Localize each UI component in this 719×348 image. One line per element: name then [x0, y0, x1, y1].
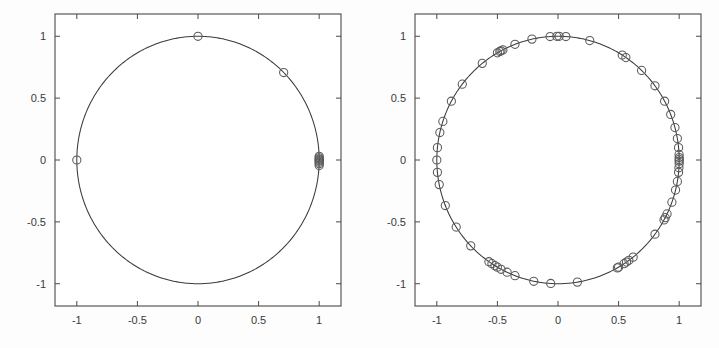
y-tick-label-4: 1: [40, 30, 46, 42]
axes-box: [415, 14, 701, 306]
axes-box: [55, 14, 341, 306]
y-tick-label-1: -0.5: [387, 216, 406, 228]
x-tick-label-0: -1: [432, 314, 442, 326]
x-tick-label-2: 0: [555, 314, 561, 326]
y-tick-label-0: -1: [396, 278, 406, 290]
y-tick-label-2: 0: [40, 154, 46, 166]
figure-canvas: -1-0.500.51-1-0.500.51 -1-0.500.51-1-0.5…: [0, 0, 719, 348]
plot-panel-left: -1-0.500.51-1-0.500.51: [0, 0, 359, 348]
x-tick-label-1: -0.5: [128, 314, 147, 326]
y-tick-label-3: 0.5: [31, 92, 46, 104]
x-tick-label-0: -1: [72, 314, 82, 326]
y-tick-label-2: 0: [400, 154, 406, 166]
plot-panel-right: -1-0.500.51-1-0.500.51: [360, 0, 719, 348]
x-tick-label-4: 1: [316, 314, 322, 326]
x-tick-label-3: 0.5: [611, 314, 626, 326]
plot-svg-left: -1-0.500.51-1-0.500.51: [0, 0, 359, 348]
x-tick-label-4: 1: [676, 314, 682, 326]
plot-svg-right: -1-0.500.51-1-0.500.51: [360, 0, 719, 348]
y-tick-label-1: -0.5: [27, 216, 46, 228]
y-tick-label-0: -1: [36, 278, 46, 290]
y-tick-label-4: 1: [400, 30, 406, 42]
x-tick-label-3: 0.5: [251, 314, 266, 326]
x-tick-label-1: -0.5: [488, 314, 507, 326]
y-tick-label-3: 0.5: [391, 92, 406, 104]
x-tick-label-2: 0: [195, 314, 201, 326]
